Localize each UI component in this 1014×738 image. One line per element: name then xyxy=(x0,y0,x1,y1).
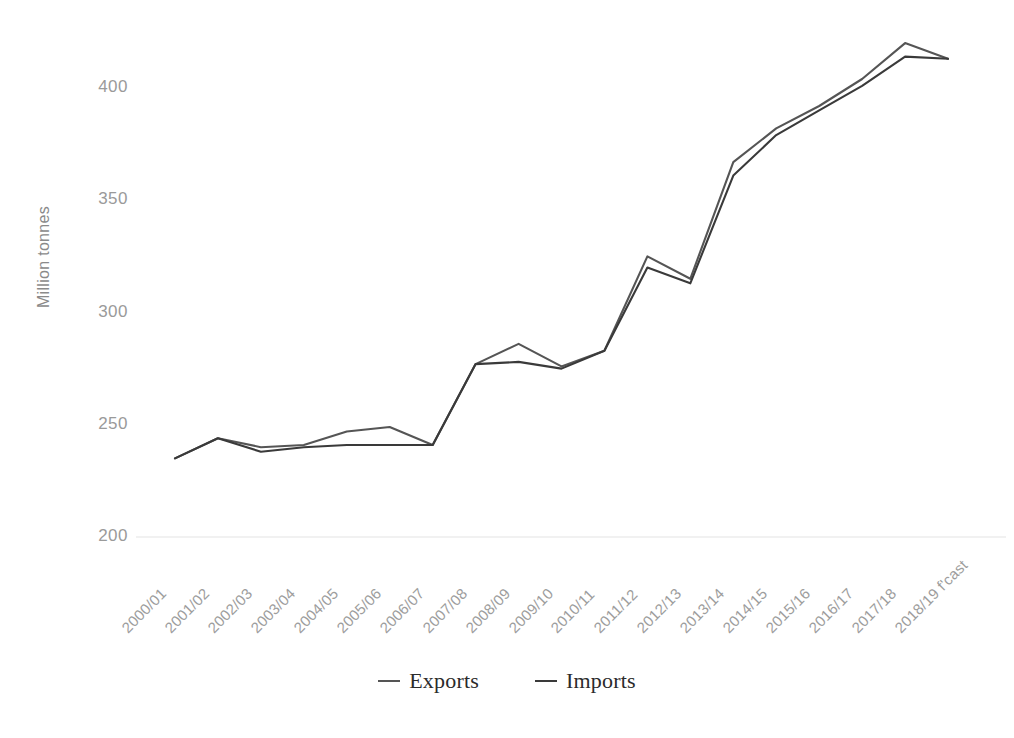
legend-line-swatch-icon xyxy=(535,680,557,682)
chart-legend: ExportsImports xyxy=(0,668,1014,694)
legend-entry-exports[interactable]: Exports xyxy=(378,668,479,694)
series-line-imports xyxy=(175,57,948,459)
legend-label: Exports xyxy=(409,668,479,694)
legend-label: Imports xyxy=(566,668,636,694)
line-chart: Million tonnes 400350300250200 2000/0120… xyxy=(0,0,1014,738)
series-canvas xyxy=(0,0,1014,738)
legend-entry-imports[interactable]: Imports xyxy=(535,668,636,694)
plot-area xyxy=(0,0,1014,738)
series-line-exports xyxy=(175,43,948,458)
legend-line-swatch-icon xyxy=(378,680,400,682)
